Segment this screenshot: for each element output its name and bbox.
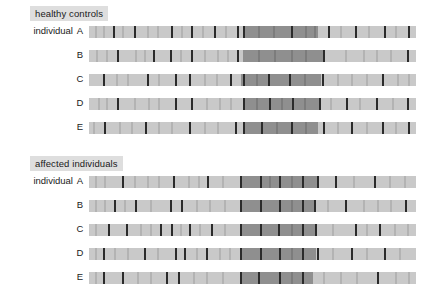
marker-tick [103,74,105,86]
marker-tick [171,224,173,236]
haplotype-bar [89,50,416,62]
marker-tick [175,248,177,260]
individual-id-label: B [74,199,86,211]
marker-tick [207,176,209,188]
marker-tick [160,224,162,236]
shared-haplotype-block [241,74,321,86]
marker-tick-faint [392,98,394,110]
marker-tick [345,200,347,212]
marker-tick [175,74,177,86]
marker-tick [319,98,321,110]
haplotype-row: E [0,122,430,134]
row-prefix-label: individual [33,175,73,187]
marker-tick-faint [351,74,353,86]
marker-tick [322,74,324,86]
marker-tick-faint [394,224,396,236]
marker-tick-faint [144,50,146,62]
marker-tick [376,98,378,110]
marker-tick-faint [274,50,276,62]
marker-tick-faint [137,272,139,284]
marker-tick [408,122,410,134]
marker-tick [279,272,281,284]
marker-tick-faint [353,176,355,188]
marker-tick [382,74,384,86]
marker-tick-faint [389,176,391,188]
marker-tick [170,50,172,62]
marker-tick-faint [332,248,334,260]
marker-tick [407,50,409,62]
marker-tick [323,122,325,134]
marker-tick [153,50,155,62]
marker-tick [405,200,407,212]
marker-tick-faint [363,200,365,212]
individual-id-label: A [74,175,86,187]
marker-tick [108,224,110,236]
marker-tick [235,122,237,134]
marker-tick-faint [95,26,97,38]
marker-tick [243,74,245,86]
marker-tick [104,122,106,134]
marker-tick [103,272,105,284]
haplotype-bar [89,98,416,110]
marker-tick [279,248,281,260]
haplotype-row: individualA [0,26,430,38]
marker-tick [189,74,191,86]
marker-tick [122,272,124,284]
individual-id-label: D [74,97,86,109]
marker-tick [240,224,242,236]
marker-tick [302,248,304,260]
marker-tick-faint [119,122,121,134]
marker-tick-faint [281,98,283,110]
marker-tick [302,272,304,284]
marker-tick [166,272,168,284]
marker-tick-faint [368,26,370,38]
marker-tick-faint [171,122,173,134]
marker-tick [351,122,353,134]
marker-tick [134,26,136,38]
marker-tick-faint [131,122,133,134]
marker-tick [289,74,291,86]
individual-id-label: B [74,49,86,61]
marker-tick-faint [204,74,206,86]
marker-tick-faint [181,26,183,38]
marker-tick [346,98,348,110]
marker-tick [407,98,409,110]
marker-tick-faint [227,50,229,62]
marker-tick-faint [337,74,339,86]
marker-tick-faint [222,176,224,188]
marker-tick-faint [204,122,206,134]
marker-tick [114,200,116,212]
marker-tick-faint [106,98,108,110]
marker-tick-faint [291,248,293,260]
marker-tick-faint [291,50,293,62]
marker-tick-faint [224,200,226,212]
marker-tick-faint [95,176,97,188]
marker-tick-faint [305,50,307,62]
individual-id-label: A [74,25,86,37]
marker-tick [328,26,330,38]
marker-tick [384,26,386,38]
marker-tick [302,224,304,236]
marker-tick-faint [390,200,392,212]
marker-tick-faint [147,176,149,188]
marker-tick-faint [327,200,329,212]
marker-tick-faint [291,176,293,188]
marker-tick-faint [217,122,219,134]
marker-tick [117,98,119,110]
marker-tick-faint [395,26,397,38]
marker-tick [175,98,177,110]
marker-tick [103,248,105,260]
marker-tick-faint [330,98,332,110]
marker-tick-faint [291,224,293,236]
marker-tick [291,122,293,134]
marker-tick [279,176,281,188]
marker-tick-faint [95,248,97,260]
haplotype-row: individualA [0,176,430,188]
marker-tick-faint [366,248,368,260]
marker-tick-faint [356,272,358,284]
marker-tick [317,176,319,188]
marker-tick [191,50,193,62]
individual-id-label: E [74,121,86,133]
marker-tick-faint [399,248,401,260]
marker-tick-faint [407,224,409,236]
